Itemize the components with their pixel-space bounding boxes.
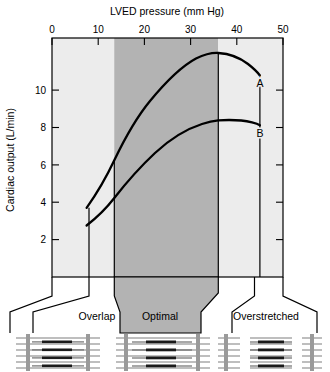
sarcomere-diagram-overlap [16, 334, 100, 371]
myosin-taper-overstretched [250, 341, 292, 366]
y-tick-label-10: 10 [35, 85, 47, 96]
z-line-optimal-left [124, 334, 128, 371]
x-axis-title: LVED pressure (mm Hg) [110, 5, 224, 17]
y-tick-labels: 2 4 6 8 10 [35, 85, 47, 246]
funnel-overlap-outer-left [10, 277, 52, 333]
label-point-a: A [256, 77, 263, 89]
x-tick-label-20: 20 [139, 24, 151, 35]
x-tick-label-30: 30 [185, 24, 197, 35]
z-line-overlap-right [86, 334, 90, 371]
myosin-taper-optimal [132, 341, 192, 366]
funnel-optimal [114, 277, 218, 333]
label-point-b: B [256, 127, 263, 139]
z-line-optimal-right [196, 334, 200, 371]
funnel-overlap [33, 277, 89, 333]
x-tick-label-10: 10 [93, 24, 105, 35]
frank-starling-figure-svg: LVED pressure (mm Hg) Cardiac output (L/… [0, 0, 330, 372]
y-axis-title: Cardiac output (L/min) [4, 108, 16, 212]
z-line-overlap-left [26, 334, 30, 371]
y-tick-label-2: 2 [40, 234, 46, 245]
sarcomere-diagram-overstretched [218, 334, 322, 371]
x-tick-label-0: 0 [49, 24, 55, 35]
optimal-band-group [114, 38, 218, 277]
gap-left-overstretched [240, 336, 250, 371]
funnel-overstretched-right-edge [283, 277, 317, 333]
panel-label-overstretched: Overstretched [233, 310, 299, 322]
x-tick-label-50: 50 [277, 24, 289, 35]
optimal-band-rect [114, 38, 218, 277]
x-tick-label-40: 40 [231, 24, 243, 35]
sarcomere-diagram-optimal [116, 334, 210, 371]
y-tick-label-6: 6 [40, 160, 46, 171]
funnel-overstretched [232, 277, 317, 333]
gap-right-overstretched [292, 336, 302, 371]
y-tick-label-4: 4 [40, 197, 46, 208]
chart-figure: LVED pressure (mm Hg) Cardiac output (L/… [0, 0, 330, 372]
y-tick-label-8: 8 [40, 122, 46, 133]
x-tick-labels: 0 10 20 30 40 50 [49, 24, 289, 35]
panel-label-optimal: Optimal [142, 310, 178, 322]
z-line-overstretched-left [224, 334, 228, 371]
funnel-overlap-right-edge [33, 277, 89, 333]
z-line-overstretched-right [310, 334, 314, 371]
funnel-overstretched-left-edge [232, 277, 255, 333]
panel-label-overlap: Overlap [79, 310, 116, 322]
